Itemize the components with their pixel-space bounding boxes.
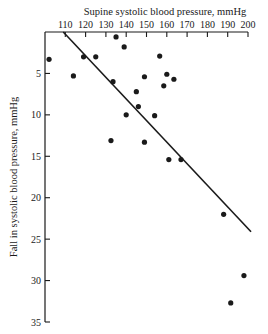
- data-point: [46, 57, 51, 62]
- y-tick-label: 35: [31, 317, 41, 328]
- data-point: [81, 54, 86, 59]
- x-tick-label: 150: [139, 19, 154, 30]
- y-tick-label: 25: [31, 234, 41, 245]
- data-points: [46, 34, 246, 305]
- x-axis-label: Supine systolic blood pressure, mmHg: [84, 6, 247, 17]
- y-tick-label: 30: [31, 275, 41, 286]
- x-tick-label: 130: [98, 19, 113, 30]
- data-point: [93, 54, 98, 59]
- data-point: [152, 113, 157, 118]
- data-point: [157, 53, 162, 58]
- data-point: [164, 72, 169, 77]
- data-point: [166, 157, 171, 162]
- x-tick-label: 140: [119, 19, 134, 30]
- data-point: [221, 212, 226, 217]
- x-tick-label: 160: [159, 19, 174, 30]
- data-point: [178, 157, 183, 162]
- x-tick-label: 180: [200, 19, 215, 30]
- x-tick-label: 200: [241, 19, 256, 30]
- chart-canvas: Supine systolic blood pressure, mmHg 110…: [0, 0, 268, 334]
- regression-line: [63, 32, 251, 232]
- data-point: [124, 112, 129, 117]
- y-tick-label: 20: [31, 192, 41, 203]
- data-point: [142, 74, 147, 79]
- data-point: [113, 34, 118, 39]
- x-tick-label: 170: [180, 19, 195, 30]
- data-point: [142, 140, 147, 145]
- x-tick-label: 110: [58, 19, 73, 30]
- data-point: [108, 138, 113, 143]
- data-point: [71, 73, 76, 78]
- data-point: [110, 79, 115, 84]
- data-point: [228, 300, 233, 305]
- data-point: [134, 89, 139, 94]
- y-tick-label: 15: [31, 151, 41, 162]
- x-tick-label: 190: [220, 19, 235, 30]
- y-tick-label: 10: [31, 109, 41, 120]
- y-axis-label: Fall in systolic blood pressure, mmHg: [8, 96, 19, 257]
- y-tick-label: 5: [36, 68, 41, 79]
- data-point: [136, 104, 141, 109]
- scatter-chart: Supine systolic blood pressure, mmHg 110…: [0, 0, 268, 334]
- x-tick-label: 120: [78, 19, 93, 30]
- data-point: [241, 273, 246, 278]
- data-point: [171, 77, 176, 82]
- y-axis-ticks: 5101520253035: [31, 68, 50, 328]
- data-point: [122, 44, 127, 49]
- data-point: [161, 83, 166, 88]
- x-axis-ticks: 110120130140150160170180190200: [58, 19, 256, 37]
